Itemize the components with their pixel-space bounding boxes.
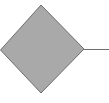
diagram-canvas [0,0,109,103]
decision-diamond[interactable] [1,5,85,93]
